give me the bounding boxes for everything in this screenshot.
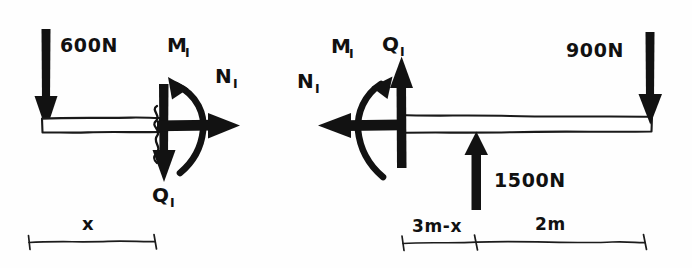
dimension-2m: 2m (535, 214, 566, 234)
figure-canvas: 600N M I N I Q I x (0, 0, 692, 268)
label-normal-left: N I (215, 64, 238, 91)
left-free-body: 600N M I N I Q I x (29, 29, 241, 250)
dimension-3m-x-label: 3m-x (412, 216, 462, 236)
dimension-right-group: 3m-x 2m (402, 214, 647, 251)
dimension-x-label: x (82, 213, 94, 234)
label-moment-right: M I (331, 34, 354, 61)
force-arrow-900n-down (639, 32, 663, 125)
dimension-3m-x: 3m-x (412, 216, 462, 236)
label-shear-left: Q I (152, 183, 175, 210)
label-shear-left-subscript: I (170, 195, 175, 210)
dimension-x: x (29, 213, 157, 250)
label-normal-right-symbol: N (297, 69, 314, 93)
shear-arrow-right-up (390, 57, 413, 169)
force-arrow-600n-down (35, 29, 58, 130)
label-1500n-text: 1500N (494, 169, 566, 191)
label-normal-left-subscript: I (233, 76, 238, 91)
label-moment-left-subscript: I (185, 45, 190, 60)
label-moment-left: M I (167, 33, 190, 60)
beam-right (399, 115, 652, 133)
label-normal-right-subscript: I (315, 81, 320, 96)
label-shear-left-symbol: Q (152, 183, 170, 207)
beam-left (42, 118, 161, 133)
label-1500n: 1500N (494, 169, 566, 191)
force-arrow-1500n-up (465, 132, 489, 211)
label-moment-right-subscript: I (349, 46, 354, 61)
label-900n: 900N (566, 39, 624, 61)
right-free-body: M I Q I N I 1500N 900N (297, 32, 662, 251)
label-normal-left-symbol: N (215, 64, 232, 88)
label-600n-text: 600N (60, 34, 118, 56)
label-600n: 600N (60, 34, 118, 56)
label-shear-right: Q I (382, 32, 405, 59)
label-normal-right: N I (297, 69, 320, 96)
label-shear-right-symbol: Q (382, 32, 400, 56)
label-900n-text: 900N (566, 39, 624, 61)
normal-arrow-left-right (157, 113, 240, 139)
label-shear-right-subscript: I (400, 44, 405, 59)
dimension-2m-label: 2m (535, 214, 566, 234)
free-body-diagram: 600N M I N I Q I x (0, 0, 692, 268)
